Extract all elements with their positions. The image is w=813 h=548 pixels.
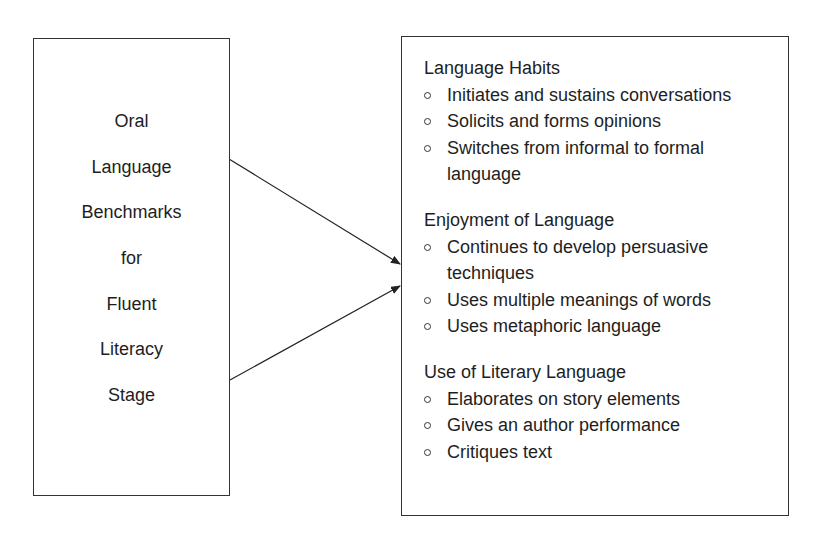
- stage-word: Fluent: [34, 294, 229, 315]
- list-item: Critiques text: [424, 439, 680, 466]
- bullet-icon: [424, 244, 431, 251]
- list-item: Switches from informal to formallanguage: [424, 135, 731, 188]
- list-item: Uses multiple meanings of words: [424, 287, 711, 314]
- section-heading: Language Habits: [424, 55, 731, 82]
- list-item: Uses metaphoric language: [424, 313, 711, 340]
- bullet-icon: [424, 422, 431, 429]
- stage-word: Language: [34, 157, 229, 178]
- bullet-icon: [424, 297, 431, 304]
- stage-word: for: [34, 248, 229, 269]
- stage-word: Benchmarks: [34, 202, 229, 223]
- section-heading: Enjoyment of Language: [424, 207, 711, 234]
- bullet-icon: [424, 449, 431, 456]
- section-enjoyment-of-language: Enjoyment of Language Continues to devel…: [424, 207, 711, 340]
- stage-box: Oral Language Benchmarks for Fluent Lite…: [33, 38, 230, 496]
- list-item: Solicits and forms opinions: [424, 108, 731, 135]
- section-heading: Use of Literary Language: [424, 359, 680, 386]
- section-language-habits: Language Habits Initiates and sustains c…: [424, 55, 731, 188]
- bullet-icon: [424, 118, 431, 125]
- stage-word: Oral: [34, 111, 229, 132]
- stage-word: Literacy: [34, 339, 229, 360]
- list-item: Elaborates on story elements: [424, 386, 680, 413]
- stage-word: Stage: [34, 385, 229, 406]
- arrow-upper: [229, 159, 400, 264]
- list-item: Initiates and sustains conversations: [424, 82, 731, 109]
- list-item: Gives an author performance: [424, 412, 680, 439]
- bullet-icon: [424, 396, 431, 403]
- bullet-icon: [424, 323, 431, 330]
- list-item: Continues to develop persuasivetechnique…: [424, 234, 711, 287]
- arrow-lower: [230, 286, 400, 380]
- bullet-icon: [424, 145, 431, 152]
- bullet-icon: [424, 92, 431, 99]
- benchmarks-box: Language Habits Initiates and sustains c…: [401, 36, 789, 516]
- section-use-of-literary-language: Use of Literary Language Elaborates on s…: [424, 359, 680, 465]
